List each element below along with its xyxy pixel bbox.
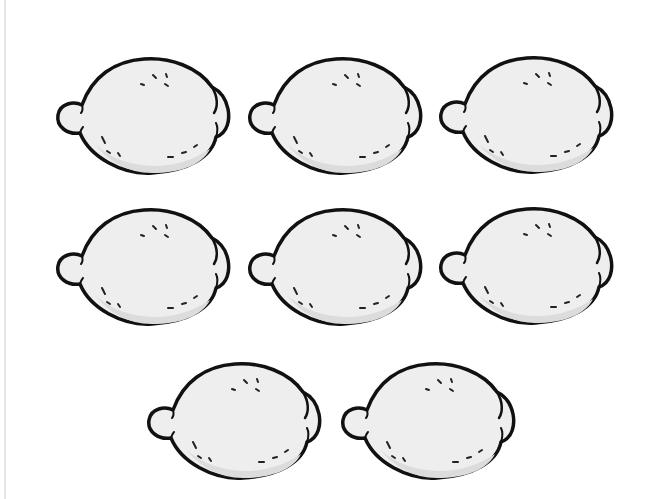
lemon-illustration-r2-3 [435, 203, 617, 331]
lemon-icon [435, 203, 617, 331]
lemon-icon [337, 358, 519, 486]
lemon-icon [143, 358, 325, 486]
lemon-icon [244, 53, 426, 181]
left-edge-line [4, 0, 6, 499]
lemon-icon [435, 52, 617, 180]
lemon-illustration-r1-3 [435, 52, 617, 180]
lemon-icon [244, 204, 426, 332]
lemon-illustration-r3-2 [337, 358, 519, 486]
lemon-icon [52, 204, 234, 332]
lemon-illustration-r3-1 [143, 358, 325, 486]
lemon-illustration-r2-2 [244, 204, 426, 332]
lemon-illustration-r1-2 [244, 53, 426, 181]
lemon-illustration-r1-1 [52, 53, 234, 181]
lemon-icon [52, 53, 234, 181]
lemon-illustration-r2-1 [52, 204, 234, 332]
